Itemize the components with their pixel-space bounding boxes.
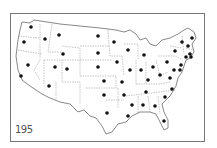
state-dot-wv: [158, 73, 162, 77]
state-dot-oh: [151, 65, 155, 69]
state-dot-fl: [162, 119, 166, 123]
state-dot-in: [139, 68, 143, 72]
state-dot-id: [43, 37, 47, 41]
state-dot-tn: [144, 90, 148, 94]
state-dot-ky: [146, 78, 150, 82]
state-dot-nc: [170, 87, 174, 91]
state-dot-mn: [112, 40, 116, 44]
figure-number-label: 195: [15, 124, 33, 135]
state-dot-or: [22, 40, 26, 44]
state-dot-pa: [165, 60, 169, 64]
state-dot-mt: [57, 33, 61, 37]
state-dot-ks: [102, 79, 106, 83]
state-dot-ne: [96, 65, 100, 69]
state-dot-ca: [19, 74, 23, 78]
state-dot-la: [126, 114, 130, 118]
state-dot-il: [128, 68, 132, 72]
state-dot-sc: [163, 95, 167, 99]
state-dot-nv: [26, 63, 30, 67]
state-dot-az: [47, 84, 51, 88]
state-dot-ms: [130, 103, 134, 107]
state-dot-ny: [173, 49, 177, 53]
state-dot-mi: [142, 53, 146, 57]
state-dot-sd: [96, 51, 100, 55]
state-dots: [19, 25, 194, 123]
state-dot-ri: [189, 55, 193, 59]
state-dot-vt: [180, 40, 184, 44]
state-dot-mo: [120, 80, 124, 84]
state-dot-va: [168, 76, 172, 80]
state-dot-ok: [102, 93, 106, 97]
state-dot-ga: [153, 104, 157, 108]
state-dot-ar: [122, 93, 126, 97]
state-dot-al: [141, 103, 145, 107]
state-dot-wi: [126, 48, 130, 52]
state-dot-nd: [96, 34, 100, 38]
state-dot-wa: [29, 25, 33, 29]
state-dot-tx: [105, 111, 109, 115]
state-dot-ut: [53, 65, 57, 69]
state-dot-ct: [184, 55, 188, 59]
state-dot-me: [190, 36, 194, 40]
state-dot-co: [65, 67, 69, 71]
state-dot-md: [172, 68, 176, 72]
state-dot-nh: [186, 44, 190, 48]
state-dot-ia: [115, 60, 119, 64]
state-dot-de: [178, 68, 182, 72]
state-dot-nj: [179, 63, 183, 67]
state-dot-wy: [61, 52, 65, 56]
